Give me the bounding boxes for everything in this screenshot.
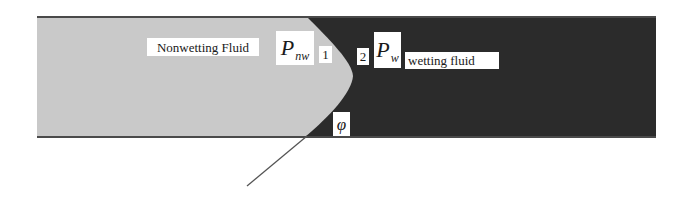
contact-angle-label: φ xyxy=(333,112,350,136)
diagram-canvas: Nonwetting Fluid Pnw 1 2 Pw wetting flui… xyxy=(0,0,679,197)
point-2-label: 2 xyxy=(357,48,369,65)
pressure-symbol: P xyxy=(376,39,389,61)
point-1-label: 1 xyxy=(319,46,332,63)
pressure-subscript: w xyxy=(391,52,399,64)
diagram-svg xyxy=(0,0,679,197)
wetting-fluid-label: wetting fluid xyxy=(405,52,499,69)
pressure-wetting-label: Pw xyxy=(374,32,401,68)
pressure-nonwetting-label: Pnw xyxy=(276,31,314,65)
pressure-subscript: nw xyxy=(295,50,309,62)
nonwetting-fluid-label: Nonwetting Fluid xyxy=(147,38,259,56)
pressure-symbol: P xyxy=(281,37,294,59)
tangent-line xyxy=(247,136,307,186)
